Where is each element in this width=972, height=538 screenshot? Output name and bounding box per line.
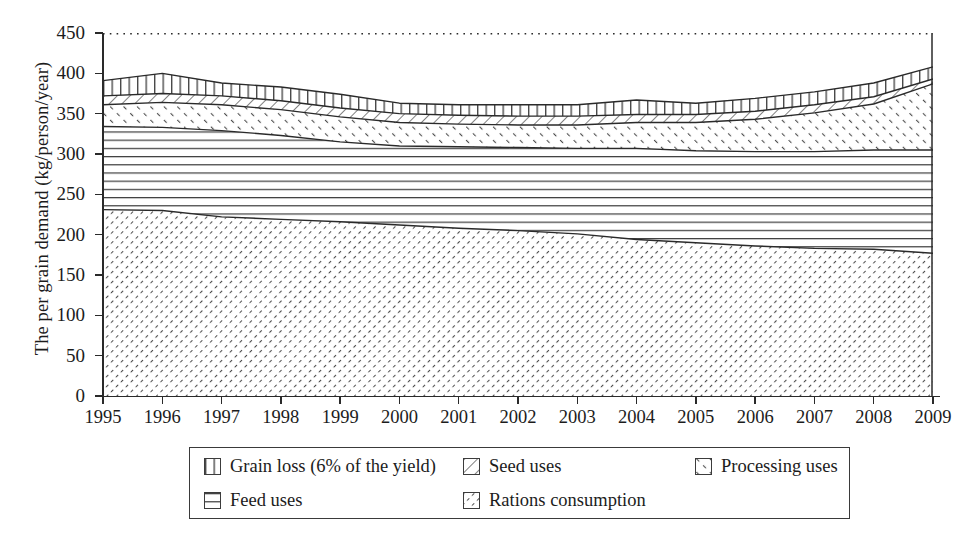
x-axis-tick [695, 396, 697, 404]
x-axis-tick [932, 396, 934, 404]
legend-swatch-icon [695, 458, 712, 475]
legend-label: Rations consumption [489, 491, 646, 510]
plot-area [103, 33, 933, 396]
chart-figure: The per grain demand (kg/person/year) 05… [0, 0, 972, 538]
y-axis-tick-label: 450 [27, 23, 85, 42]
x-axis-tick-label: 1996 [132, 406, 192, 428]
y-axis-line [102, 33, 104, 397]
stacked-area-svg [103, 33, 933, 396]
y-axis-tick-label: 0 [27, 386, 85, 405]
legend-swatch-icon [463, 458, 480, 475]
legend-item: Feed uses [204, 482, 302, 518]
x-axis-tick-label: 1995 [73, 406, 133, 428]
chart-legend: Grain loss (6% of the yield)Seed usesPro… [189, 447, 850, 519]
x-axis-tick-label: 2004 [607, 406, 667, 428]
legend-swatch-icon [204, 458, 221, 475]
x-axis-tick-label: 1999 [310, 406, 370, 428]
x-axis-tick [221, 396, 223, 404]
y-axis-tick-label: 300 [27, 144, 85, 163]
legend-label: Seed uses [489, 457, 561, 476]
x-axis-tick-label: 1997 [192, 406, 252, 428]
x-axis-tick [339, 396, 341, 404]
legend-item: Grain loss (6% of the yield) [204, 448, 436, 484]
x-axis-tick [754, 396, 756, 404]
x-axis-tick [162, 396, 164, 404]
legend-label: Feed uses [230, 491, 302, 510]
legend-item: Seed uses [463, 448, 561, 484]
legend-item: Rations consumption [463, 482, 646, 518]
x-axis-tick-label: 2009 [903, 406, 963, 428]
legend-label: Grain loss (6% of the yield) [230, 457, 436, 476]
x-axis-tick [814, 396, 816, 404]
legend-swatch-icon [463, 492, 480, 509]
x-axis-tick [458, 396, 460, 404]
x-axis-tick [873, 396, 875, 404]
x-axis-tick-label: 1998 [251, 406, 311, 428]
y-axis-tick-label: 400 [27, 63, 85, 82]
y-axis-tick-label: 200 [27, 225, 85, 244]
x-axis-tick [636, 396, 638, 404]
x-axis-tick-label: 2003 [547, 406, 607, 428]
y-axis-tick-label: 250 [27, 184, 85, 203]
y-axis-tick-label: 50 [27, 346, 85, 365]
x-axis-tick [517, 396, 519, 404]
x-axis-tick [280, 396, 282, 404]
x-axis-tick-label: 2007 [784, 406, 844, 428]
legend-item: Processing uses [695, 448, 838, 484]
y-axis-tick-label: 150 [27, 265, 85, 284]
x-axis-tick-label: 2005 [666, 406, 726, 428]
y-axis-tick-label: 350 [27, 104, 85, 123]
x-axis-tick-label: 2001 [429, 406, 489, 428]
x-axis-tick-label: 2002 [488, 406, 548, 428]
x-axis-tick [102, 396, 104, 404]
legend-row: Feed usesRations consumption [190, 482, 849, 518]
y-axis-tick-label: 100 [27, 305, 85, 324]
x-axis-tick [399, 396, 401, 404]
x-axis-tick [577, 396, 579, 404]
x-axis-tick-label: 2008 [844, 406, 904, 428]
legend-label: Processing uses [721, 457, 838, 476]
legend-swatch-icon [204, 492, 221, 509]
x-axis-tick-label: 2006 [725, 406, 785, 428]
x-axis-tick-label: 2000 [369, 406, 429, 428]
legend-row: Grain loss (6% of the yield)Seed usesPro… [190, 448, 849, 484]
